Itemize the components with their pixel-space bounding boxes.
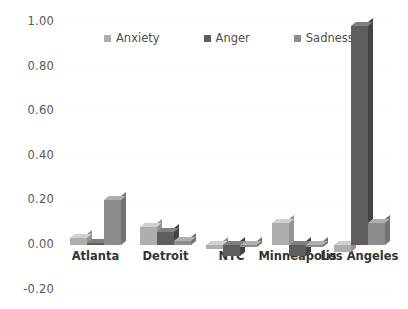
x-axis-tick-label: Los Angeles bbox=[310, 249, 408, 263]
y-axis-tick-label: 0.40 bbox=[8, 148, 54, 162]
bar bbox=[104, 200, 121, 245]
bar-face bbox=[368, 223, 385, 245]
bar-face bbox=[223, 245, 240, 256]
y-axis-tick-label: 0.20 bbox=[8, 192, 54, 206]
bar-face bbox=[240, 245, 257, 247]
bar-face bbox=[334, 245, 351, 252]
y-axis-tick-label: 0.60 bbox=[8, 103, 54, 117]
bar-side-face bbox=[121, 192, 126, 245]
bar bbox=[140, 227, 157, 245]
bar-face bbox=[289, 245, 306, 256]
bar-face bbox=[272, 223, 289, 245]
bar-face bbox=[70, 238, 87, 245]
bar bbox=[157, 232, 174, 245]
bar bbox=[272, 223, 289, 245]
bar-side-face bbox=[368, 19, 373, 245]
y-axis-tick-label: 1.00 bbox=[8, 14, 54, 28]
bar bbox=[368, 223, 385, 245]
bar bbox=[174, 241, 191, 245]
y-axis-tick-label: -0.20 bbox=[8, 282, 54, 296]
bar bbox=[351, 26, 368, 245]
bar-face bbox=[157, 232, 174, 245]
bar-face bbox=[140, 227, 157, 245]
bar bbox=[334, 245, 351, 252]
bar bbox=[70, 238, 87, 245]
bar-face bbox=[174, 241, 191, 245]
bar bbox=[87, 243, 104, 245]
bar-face bbox=[87, 243, 104, 245]
bar-face bbox=[206, 245, 223, 249]
gridline bbox=[62, 290, 394, 291]
bar bbox=[289, 245, 306, 256]
bar-chart: 1.000.800.600.400.200.00-0.20 AnxietyAng… bbox=[0, 0, 408, 309]
bar bbox=[240, 245, 257, 247]
bar-face bbox=[104, 200, 121, 245]
bar bbox=[206, 245, 223, 249]
bar-face bbox=[351, 26, 368, 245]
bar-face bbox=[306, 245, 323, 247]
bar bbox=[223, 245, 240, 256]
y-axis-tick-label: 0.80 bbox=[8, 59, 54, 73]
bar bbox=[306, 245, 323, 247]
